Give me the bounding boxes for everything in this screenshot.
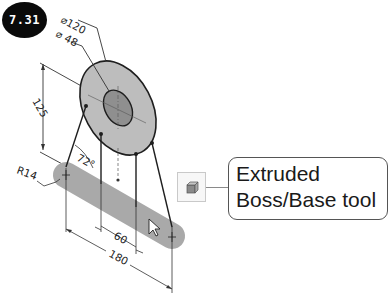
vertex-point [84, 104, 88, 108]
arrow-head [66, 229, 72, 233]
arrow-head [41, 144, 45, 150]
callout-line-2: Boss/Base tool [236, 187, 387, 213]
dimension-line-60-tick [136, 250, 143, 253]
dimension-overall-length: 180 [107, 247, 130, 267]
dimension-radius: R14 [15, 164, 39, 182]
dimension-inner-spacing: 60 [112, 229, 129, 246]
callout-connector-line [206, 187, 229, 188]
dimension-height: 125 [30, 96, 50, 119]
callout-line-1: Extruded [236, 161, 387, 187]
extruded-boss-base-icon [184, 179, 200, 195]
dimension-line-180 [66, 229, 106, 251]
arrow-head [41, 64, 45, 70]
vertex-point [150, 141, 154, 145]
vertex-point [99, 132, 103, 136]
cad-sketch-drawing: ⌀120 ⌀ 48 125 72° R14 60 180 [0, 0, 392, 302]
arrow-head [166, 285, 172, 289]
vertex-point [134, 152, 138, 156]
dimension-line-180 [130, 265, 172, 289]
dimension-line-60-tick [95, 227, 101, 230]
extruded-boss-base-button[interactable] [177, 172, 206, 202]
center-point [116, 178, 119, 181]
callout-box: Extruded Boss/Base tool [228, 157, 388, 220]
